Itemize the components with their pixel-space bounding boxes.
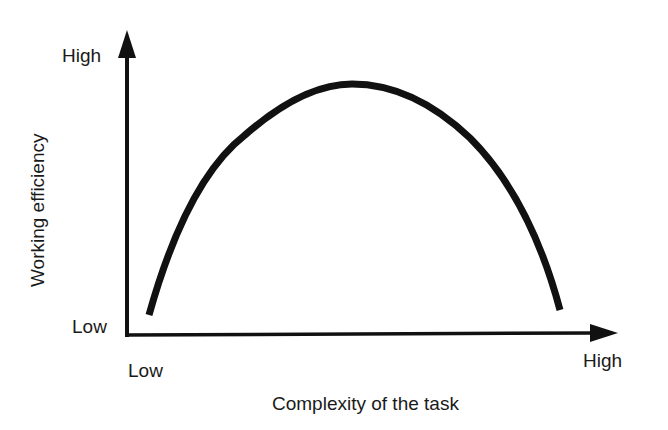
x-axis-line — [125, 333, 595, 335]
y-axis-arrowhead-icon — [118, 30, 136, 58]
y-axis-title: Working efficiency — [28, 134, 47, 287]
x-axis-title: Complexity of the task — [272, 394, 459, 413]
y-axis-high-label: High — [62, 46, 101, 65]
x-axis-arrowhead-icon — [590, 324, 618, 342]
efficiency-curve — [149, 84, 560, 315]
chart-figure: High Low Low High Complexity of the task… — [0, 0, 668, 430]
x-axis-low-label: Low — [128, 361, 163, 380]
y-axis-low-label: Low — [72, 317, 107, 336]
x-axis-high-label: High — [583, 351, 622, 370]
